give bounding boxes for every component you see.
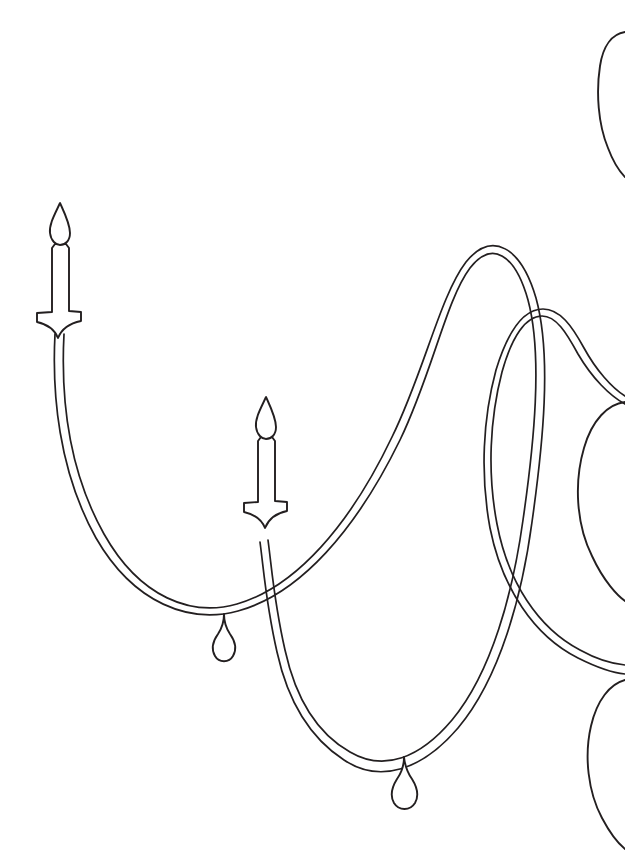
line-art-canvas (0, 0, 625, 856)
canvas-background (0, 0, 625, 856)
artboard (0, 0, 625, 856)
